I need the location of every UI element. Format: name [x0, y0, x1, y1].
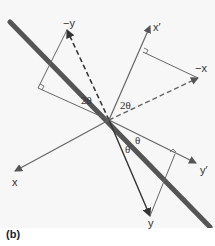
- neg-x-label: −x: [195, 63, 207, 74]
- theta-upper-label: θ: [135, 135, 140, 146]
- figure-caption: (b): [6, 228, 20, 240]
- two-theta-left-label: 2θ: [81, 95, 92, 106]
- neg-y-vector: [67, 30, 109, 120]
- x-label: x: [12, 177, 18, 188]
- y-prime-label: y′: [200, 165, 208, 176]
- y-prime-axis: [109, 120, 196, 163]
- two-theta-right-label: 2θ: [120, 100, 131, 111]
- y-label: y: [148, 218, 154, 229]
- theta-lower-label: θ: [125, 144, 130, 155]
- y-vector: [109, 120, 150, 216]
- x-prime-label: x′: [153, 22, 161, 33]
- mirror-line: [10, 22, 210, 227]
- reflection-diagram: [0, 0, 215, 228]
- x-axis: [15, 120, 109, 171]
- neg-y-label: −y: [63, 18, 75, 29]
